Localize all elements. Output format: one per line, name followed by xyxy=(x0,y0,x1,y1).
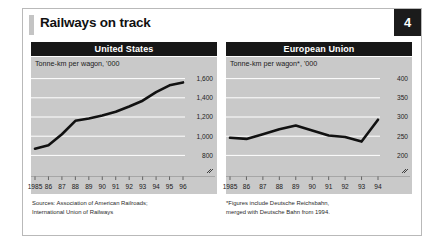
x-tick-label: 90 xyxy=(99,183,106,190)
plot-svg-european-union: 200250300350400 xyxy=(226,57,412,176)
x-tick-label: 1985 xyxy=(223,183,238,190)
plot-area-european-union: Tonne-km per wagon*, '000 20025030035040… xyxy=(226,57,412,176)
x-tick-label: 89 xyxy=(292,183,299,190)
x-tick-label: 90 xyxy=(309,183,316,190)
x-tick-label: 93 xyxy=(358,183,365,190)
data-line xyxy=(230,120,378,142)
x-axis-labels-european-union: 1985868788899091929394 xyxy=(226,182,412,194)
x-tick-label: 87 xyxy=(259,183,266,190)
x-tick-label: 89 xyxy=(85,183,92,190)
x-tick-label: 87 xyxy=(58,183,65,190)
svg-text:350: 350 xyxy=(397,94,408,101)
x-tick-label: 95 xyxy=(166,183,173,190)
x-tick-label: 94 xyxy=(152,183,159,190)
plot-svg-united-states: 8001,0001,2001,4001,600 xyxy=(31,57,217,176)
x-axis-united-states: 19858687888990919293949596 xyxy=(31,176,217,194)
svg-text:800: 800 xyxy=(202,152,213,159)
x-tick-label: 92 xyxy=(341,183,348,190)
x-tick-label: 91 xyxy=(112,183,119,190)
chart-title-united-states: United States xyxy=(31,42,217,56)
source-note: Sources: Association of American Railroa… xyxy=(32,199,212,217)
svg-text:200: 200 xyxy=(397,152,408,159)
chart-panel-european-union: European Union Tonne-km per wagon*, '000… xyxy=(226,42,412,194)
x-axis-labels-united-states: 19858687888990919293949596 xyxy=(31,182,217,194)
title-row: Railways on track 4 xyxy=(23,9,421,40)
figure-number-badge: 4 xyxy=(394,9,421,36)
x-tick-label: 88 xyxy=(276,183,283,190)
x-tick-label: 91 xyxy=(325,183,332,190)
figure-frame: Railways on track 4 United States Tonne-… xyxy=(22,8,422,236)
svg-text:1,200: 1,200 xyxy=(196,113,213,120)
page-title: Railways on track xyxy=(40,15,151,30)
x-tick-label: 86 xyxy=(243,183,250,190)
title-accent-bar xyxy=(29,15,34,35)
chart-title-european-union: European Union xyxy=(226,42,412,56)
x-tick-label: 94 xyxy=(374,183,381,190)
svg-text:1,600: 1,600 xyxy=(196,75,213,82)
x-axis-european-union: 1985868788899091929394 xyxy=(226,176,412,194)
x-tick-label: 86 xyxy=(45,183,52,190)
figures-note: *Figures include Deutsche Reichsbahn, me… xyxy=(226,199,406,217)
x-tick-label: 88 xyxy=(72,183,79,190)
data-line xyxy=(35,82,183,148)
x-tick-label: 92 xyxy=(126,183,133,190)
svg-text:400: 400 xyxy=(397,75,408,82)
svg-text:250: 250 xyxy=(397,133,408,140)
x-tick-label: 1985 xyxy=(28,183,43,190)
x-tick-label: 93 xyxy=(139,183,146,190)
x-tick-label: 96 xyxy=(179,183,186,190)
plot-area-united-states: Tonne-km per wagon, '000 8001,0001,2001,… xyxy=(31,57,217,176)
chart-panel-united-states: United States Tonne-km per wagon, '000 8… xyxy=(31,42,217,194)
svg-text:1,000: 1,000 xyxy=(196,133,213,140)
svg-text:1,400: 1,400 xyxy=(196,94,213,101)
svg-text:300: 300 xyxy=(397,113,408,120)
